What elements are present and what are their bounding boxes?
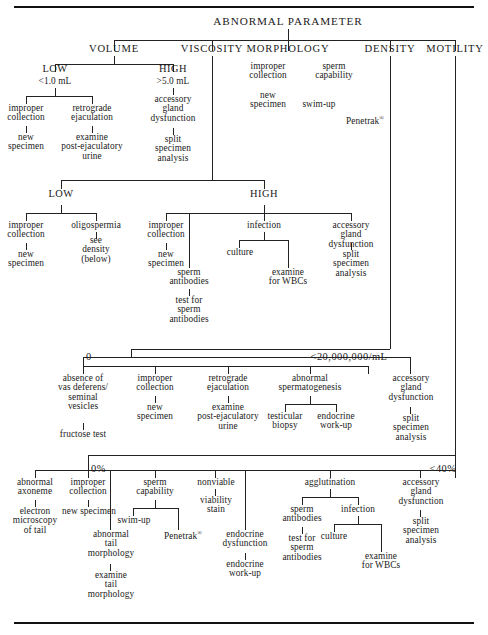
node-improper-collection-viscosity-high: improper collection xyxy=(137,221,195,240)
penetrak-text-2: Penetrak xyxy=(164,531,197,541)
motility-low-label: <40% xyxy=(420,464,466,475)
node-penetrak-morphology: Penetrak® xyxy=(330,115,400,127)
node-viability-stain: viability stain xyxy=(185,496,247,515)
node-endocrine-dysfunction: endocrine dysfunction xyxy=(214,530,276,549)
category-morphology: MORPHOLOGY xyxy=(238,44,338,55)
node-new-specimen-viscosity-low: new specimen xyxy=(0,250,55,269)
node-split-specimen-analysis-motility: split specimen analysis xyxy=(386,517,456,545)
node-new-specimen-morphology: new specimen xyxy=(239,91,297,110)
viscosity-high-label: HIGH xyxy=(234,189,294,200)
bottom-rule xyxy=(14,622,474,624)
node-sperm-capability-morphology: sperm capability xyxy=(302,62,366,81)
viscosity-low-label: LOW xyxy=(31,189,91,200)
node-retrograde-ejaculation: retrograde ejaculation xyxy=(57,104,127,123)
node-split-specimen-analysis-viscosity: split specimen analysis xyxy=(316,250,386,278)
node-examine-for-wbcs-viscosity: examine for WBCs xyxy=(258,268,318,287)
node-accessory-gland-dysfunction-density: accessory gland dysfunction xyxy=(376,374,446,402)
node-abnormal-axoneme: abnormal axoneme xyxy=(4,478,66,497)
node-examine-post-ejaculatory-urine: examine post-ejaculatory urine xyxy=(52,133,132,161)
node-infection-motility: infection xyxy=(328,505,388,514)
node-improper-collection: improper collection xyxy=(0,104,55,123)
node-culture-viscosity: culture xyxy=(214,248,266,257)
node-nonviable: nonviable xyxy=(185,478,247,487)
motility-zero-label: 0% xyxy=(91,464,121,475)
density-zero-label: 0 xyxy=(86,352,106,363)
node-test-for-sperm-antibodies-viscosity: test for sperm antibodies xyxy=(159,296,219,324)
registered-icon-2: ® xyxy=(197,530,202,536)
node-examine-for-wbcs-motility: examine for WBCs xyxy=(351,552,411,571)
node-accessory-gland-dysfunction-motility: accessory gland dysfunction xyxy=(386,478,456,506)
density-low-label: <20,000,000/mL xyxy=(290,352,408,363)
node-abnormal-spermatogenesis: abnormal spermatogenesis xyxy=(265,374,355,393)
flowchart-figure: ABNORMAL PARAMETER VOLUME VISCOSITY MORP… xyxy=(0,0,488,635)
volume-low-label: LOW xyxy=(25,64,85,75)
node-absence-of-vas: absence of vas deferens/ seminal vesicle… xyxy=(46,374,120,412)
node-fructose-test: fructose test xyxy=(46,430,120,439)
category-motility: MOTILITY xyxy=(417,44,488,55)
node-see-density-below: see density (below) xyxy=(66,236,126,264)
node-agglutination: agglutination xyxy=(294,478,366,487)
volume-high-value: >5.0 mL xyxy=(143,77,203,86)
node-new-specimen: new specimen xyxy=(0,133,55,152)
node-culture-motility: culture xyxy=(308,532,360,541)
node-improper-collection-morphology: improper collection xyxy=(239,62,297,81)
node-improper-collection-viscosity-low: improper collection xyxy=(0,221,55,240)
node-endocrine-work-up-motility: endocrine work-up xyxy=(214,560,276,579)
volume-low-value: <1.0 mL xyxy=(25,77,85,86)
node-retrograde-ejaculation-density: retrograde ejaculation xyxy=(193,374,263,393)
node-improper-collection-motility: improper collection xyxy=(59,478,117,497)
volume-high-label: HIGH xyxy=(143,64,203,75)
node-penetrak-motility: Penetrak® xyxy=(148,530,218,542)
node-abnormal-tail-morphology: abnormal tail morphology xyxy=(80,530,142,558)
node-split-specimen-analysis-volume: split specimen analysis xyxy=(138,135,208,163)
node-oligospermia: oligospermia xyxy=(59,221,133,230)
node-infection-viscosity: infection xyxy=(234,221,294,230)
node-sperm-antibodies-viscosity: sperm antibodies xyxy=(159,268,219,287)
node-new-specimen-density: new specimen xyxy=(126,403,184,422)
node-swim-up-morphology: swim-up xyxy=(293,100,345,109)
node-sperm-capability-motility: sperm capability xyxy=(123,478,187,497)
penetrak-text: Penetrak xyxy=(346,116,379,126)
node-swim-up-motility: swim-up xyxy=(108,516,160,525)
node-accessory-gland-dysfunction-viscosity: accessory gland dysfunction xyxy=(316,221,386,249)
root-label: ABNORMAL PARAMETER xyxy=(198,16,378,27)
category-volume: VOLUME xyxy=(74,44,154,55)
registered-icon: ® xyxy=(379,115,384,121)
node-accessory-gland-dysfunction-volume: accessory gland dysfunction xyxy=(138,95,208,123)
node-endocrine-work-up-density: endocrine work-up xyxy=(306,412,366,431)
node-examine-tail-morphology: examine tail morphology xyxy=(80,571,142,599)
node-improper-collection-density: improper collection xyxy=(126,374,184,393)
node-sperm-antibodies-motility: sperm antibodies xyxy=(272,505,332,524)
node-split-specimen-analysis-density: split specimen analysis xyxy=(376,414,446,442)
top-rule xyxy=(14,6,474,8)
